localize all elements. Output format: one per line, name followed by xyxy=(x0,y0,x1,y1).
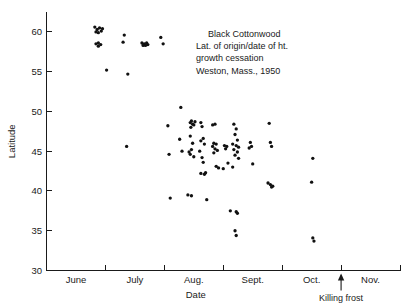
y-tick-label-55: 55 xyxy=(31,66,42,77)
data-point xyxy=(212,151,215,154)
data-point xyxy=(270,145,273,148)
data-point xyxy=(190,148,193,151)
data-point xyxy=(162,42,165,45)
data-point xyxy=(269,141,272,144)
data-point xyxy=(166,124,169,127)
data-point xyxy=(233,133,236,136)
y-tick-label-35: 35 xyxy=(31,225,42,236)
data-point xyxy=(251,162,254,165)
data-point xyxy=(121,41,124,44)
scatter-plot-figure: 30354045505560JuneJulyAug.Sept.Oct.Nov.L… xyxy=(0,0,411,307)
x-tick-label-oct: Oct. xyxy=(303,274,320,285)
data-point xyxy=(192,155,195,158)
data-point xyxy=(193,120,196,123)
data-point xyxy=(311,236,314,239)
y-tick-label-30: 30 xyxy=(31,265,42,276)
data-point xyxy=(216,149,219,152)
data-point xyxy=(105,68,108,71)
data-point xyxy=(180,150,183,153)
data-point xyxy=(235,234,238,237)
data-point xyxy=(204,171,207,174)
data-point xyxy=(229,209,232,212)
data-point xyxy=(270,185,273,188)
data-point xyxy=(215,142,218,145)
data-point xyxy=(226,161,229,164)
x-tick-label-june: June xyxy=(66,274,87,285)
data-point xyxy=(236,138,239,141)
data-point xyxy=(237,146,240,149)
x-axis-title: Date xyxy=(186,289,206,300)
y-tick-label-45: 45 xyxy=(31,146,42,157)
annotation-line-1: Black Cottonwood xyxy=(208,29,281,39)
data-point xyxy=(203,142,206,145)
x-tick-label-nov: Nov. xyxy=(361,274,380,285)
data-point xyxy=(235,127,238,130)
data-point xyxy=(310,181,313,184)
data-point xyxy=(126,72,129,75)
data-point xyxy=(236,212,239,215)
data-point xyxy=(231,165,234,168)
data-point xyxy=(312,239,315,242)
data-point xyxy=(98,26,101,29)
data-point xyxy=(213,123,216,126)
axis-labels-layer: 30354045505560JuneJulyAug.Sept.Oct.Nov.L… xyxy=(6,26,380,299)
data-point xyxy=(233,229,236,232)
data-point xyxy=(200,125,203,128)
annotation-layer: Black CottonwoodLat. of origin/date of h… xyxy=(196,29,364,303)
data-point xyxy=(217,166,220,169)
data-point xyxy=(146,43,149,46)
data-point xyxy=(191,142,194,145)
x-tick-label-sept: Sept. xyxy=(242,274,264,285)
data-point xyxy=(231,142,234,145)
data-point xyxy=(94,30,97,33)
annotation-line-4: Weston, Mass., 1950 xyxy=(196,66,280,76)
data-point xyxy=(187,150,190,153)
data-point xyxy=(199,121,202,124)
data-point xyxy=(232,123,235,126)
annotation-line-2: Lat. of origin/date of ht. xyxy=(196,41,288,51)
x-tick-label-july: July xyxy=(126,274,143,285)
data-point xyxy=(200,156,203,159)
data-point xyxy=(125,145,128,148)
data-point xyxy=(189,126,192,129)
data-point xyxy=(97,45,100,48)
data-point xyxy=(249,141,252,144)
data-point xyxy=(311,157,314,160)
data-point xyxy=(178,138,181,141)
data-point xyxy=(202,137,205,140)
data-point xyxy=(199,139,202,142)
data-point xyxy=(199,172,202,175)
y-tick-label-50: 50 xyxy=(31,106,42,117)
annotation-line-3: growth cessation xyxy=(196,53,264,63)
data-point xyxy=(232,148,235,151)
data-point xyxy=(167,153,170,156)
data-point xyxy=(198,150,201,153)
plot-canvas: 30354045505560JuneJulyAug.Sept.Oct.Nov.L… xyxy=(0,0,411,307)
killing-frost-label: Killing frost xyxy=(319,293,364,303)
data-point xyxy=(189,134,192,137)
y-tick-label-60: 60 xyxy=(31,26,42,37)
data-point xyxy=(205,198,208,201)
x-tick-label-aug: Aug. xyxy=(184,274,204,285)
data-point xyxy=(169,196,172,199)
data-point xyxy=(159,36,162,39)
killing-frost-arrow-head xyxy=(338,274,344,281)
data-point xyxy=(268,122,271,125)
data-point xyxy=(233,154,236,157)
data-point xyxy=(224,147,227,150)
data-point xyxy=(248,146,251,149)
data-point xyxy=(211,145,214,148)
y-tick-label-40: 40 xyxy=(31,185,42,196)
data-point xyxy=(186,193,189,196)
data-point xyxy=(192,123,195,126)
data-point xyxy=(222,167,225,170)
data-point xyxy=(202,161,205,164)
data-point xyxy=(190,194,193,197)
data-point xyxy=(123,33,126,36)
data-point xyxy=(237,157,240,160)
y-axis-title: Latitude xyxy=(6,124,17,158)
data-point xyxy=(190,119,193,122)
data-point xyxy=(236,150,239,153)
data-point xyxy=(101,27,104,30)
data-point xyxy=(179,106,182,109)
